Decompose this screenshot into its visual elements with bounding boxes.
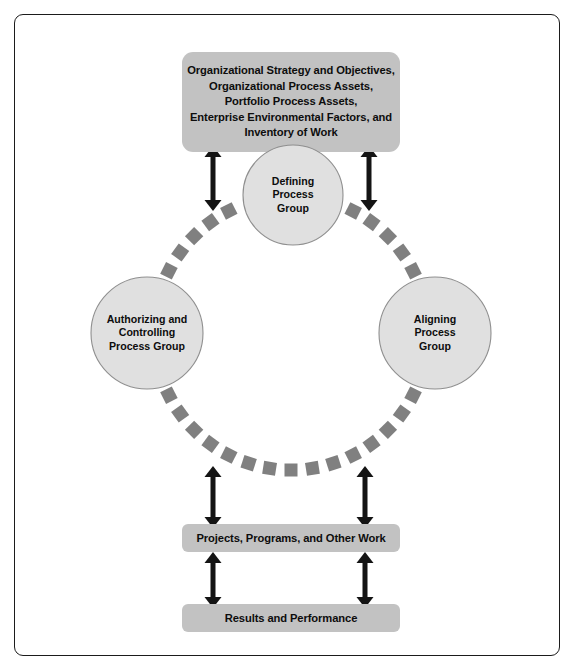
- arrow-head-down: [205, 200, 222, 211]
- cycle-dash-segment: [404, 386, 421, 403]
- authorizing-controlling-process-group-circle: [91, 277, 203, 389]
- cycle-dash-segment: [160, 386, 177, 403]
- cycle-dash-segment: [344, 202, 361, 219]
- arrow-shaft: [211, 156, 216, 201]
- arrow-projects-left: [205, 466, 222, 528]
- arrow-shaft: [367, 156, 372, 201]
- arrow-shaft: [211, 562, 216, 598]
- cycle-dash-segment: [185, 227, 203, 245]
- arrow-head-down: [361, 200, 378, 211]
- cycle-dash-segment: [220, 446, 237, 463]
- cycle-dash-segment: [379, 227, 397, 245]
- cycle-dash-segment: [220, 202, 237, 219]
- process-group-circles: [91, 145, 491, 389]
- arrow-results-left: [205, 552, 222, 608]
- aligning-process-group-circle: [379, 277, 491, 389]
- defining-process-group-circle: [243, 145, 343, 245]
- arrow-head-up: [357, 466, 374, 477]
- cycle-dash-segment: [171, 243, 189, 261]
- box-group: [182, 52, 400, 632]
- cycle-dash-segment: [404, 262, 421, 279]
- cycle-dash-segment: [160, 262, 177, 279]
- arrow-head-up: [205, 552, 222, 563]
- arrow-inputs-left: [205, 146, 222, 211]
- cycle-dash-segment: [393, 243, 411, 261]
- process-group-cycle-diagram: [0, 0, 576, 672]
- cycle-dash-segment: [285, 464, 298, 477]
- cycle-dash-segment: [201, 435, 219, 453]
- cycle-dash-segment: [240, 455, 256, 471]
- arrow-shaft: [211, 476, 216, 518]
- cycle-dash-segment: [362, 435, 380, 453]
- arrow-head-up: [205, 466, 222, 477]
- cycle-dash-segment: [379, 421, 397, 439]
- arrow-inputs-right: [361, 146, 378, 211]
- arrow-results-right: [357, 552, 374, 608]
- results-box: [182, 604, 400, 632]
- arrow-projects-right: [357, 466, 374, 528]
- cycle-dash-segment: [362, 213, 380, 231]
- cycle-dash-segment: [201, 213, 219, 231]
- cycle-dash-segment: [393, 404, 411, 422]
- arrow-shaft: [363, 562, 368, 598]
- figure-root: Organizational Strategy and Objectives,O…: [0, 0, 576, 672]
- cycle-dash-segment: [344, 446, 361, 463]
- cycle-dash-segment: [325, 455, 341, 471]
- cycle-dash-segment: [171, 404, 189, 422]
- arrow-head-up: [357, 552, 374, 563]
- cycle-dash-segment: [185, 421, 203, 439]
- projects-box: [182, 524, 400, 552]
- arrow-shaft: [363, 476, 368, 518]
- cycle-dash-segment: [262, 461, 277, 476]
- inputs-box: [182, 52, 400, 152]
- cycle-dash-segment: [305, 461, 320, 476]
